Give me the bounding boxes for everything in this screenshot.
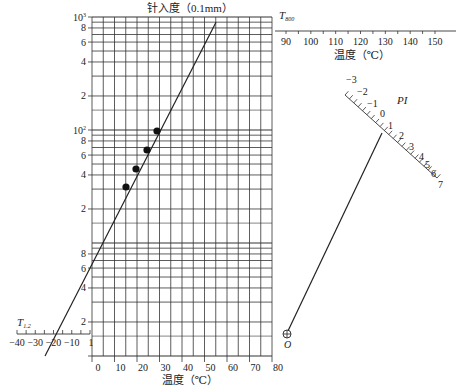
pi-tick-label: −1 xyxy=(367,98,378,109)
chart-title: 针入度（0.1mm） xyxy=(147,1,233,14)
pi-tick-label: 2 xyxy=(399,130,404,141)
t800-tick-label: 140 xyxy=(403,36,418,47)
y-tick-label: 6 xyxy=(81,150,86,161)
y-tick-label: 6 xyxy=(81,37,86,48)
y-tick-label: 6 xyxy=(81,263,86,274)
t800-tick-label: 150 xyxy=(428,36,443,47)
y-tick-label: 8 xyxy=(81,135,86,146)
pi-tick-label: 4 xyxy=(419,151,424,162)
pi-tick-label: −3 xyxy=(346,74,357,85)
y-tick-label: 8 xyxy=(81,22,86,33)
origin-label: O xyxy=(284,339,291,350)
x-tick-label: 10 xyxy=(116,362,126,373)
pi-tick-label: 1 xyxy=(388,120,393,131)
x-tick-label: 40 xyxy=(183,362,193,373)
t800-tick-label: 110 xyxy=(328,36,343,47)
y-tick-label: 4 xyxy=(81,56,86,67)
data-point xyxy=(143,146,150,153)
x-tick-label: 20 xyxy=(138,362,148,373)
t800-axis-label: 温度（℃） xyxy=(334,48,390,61)
t800-tick-label: 130 xyxy=(378,36,393,47)
pi-tick-label: −2 xyxy=(357,86,368,97)
t12-tick-label: −10 xyxy=(64,337,80,348)
x-tick-label: 60 xyxy=(228,362,238,373)
x-tick-label: 80 xyxy=(273,362,283,373)
axes: 10386421028642864201020304050607080−40−3… xyxy=(9,12,456,374)
x-tick-label: 70 xyxy=(251,362,261,373)
t800-tick-label: 120 xyxy=(353,36,368,47)
t12-tick-label: −30 xyxy=(27,337,43,348)
x-tick-label: 30 xyxy=(161,362,171,373)
data-point xyxy=(122,183,129,190)
t12-label: T1.2 xyxy=(17,316,31,329)
pi-label: PI xyxy=(396,94,409,106)
y-tick-label: 102 xyxy=(73,125,86,136)
t800-label: T800 xyxy=(279,9,294,22)
data-point xyxy=(153,127,160,134)
y-tick-label: 2 xyxy=(81,316,86,327)
y-tick-label: 8 xyxy=(81,248,86,259)
y-tick-label: 2 xyxy=(81,90,86,101)
log-grid xyxy=(92,17,272,356)
y-tick-label: 2 xyxy=(81,203,86,214)
x-axis-label: 温度（℃） xyxy=(162,373,218,386)
t12-tick-label: −40 xyxy=(9,337,25,348)
t800-tick-label: 90 xyxy=(281,36,291,47)
pi-tick-label: 3 xyxy=(409,141,414,152)
pi-tick-label: 6 xyxy=(431,168,436,179)
pi-tick-label: 0 xyxy=(380,108,385,119)
t800-tick-label: 100 xyxy=(303,36,318,47)
pi-tick-label: 5 xyxy=(425,159,430,170)
penetration-temperature-nomograph: 10386421028642864201020304050607080−40−3… xyxy=(0,0,460,389)
y-tick-label: 103 xyxy=(73,12,86,23)
x-tick-label: 50 xyxy=(206,362,216,373)
x-tick-label: 0 xyxy=(96,362,101,373)
pi-tick-label: 7 xyxy=(438,179,443,190)
y-tick-label: 1 xyxy=(89,337,94,348)
pi-construction-line xyxy=(287,133,382,333)
y-tick-label: 4 xyxy=(81,169,86,180)
data-point xyxy=(132,165,139,172)
